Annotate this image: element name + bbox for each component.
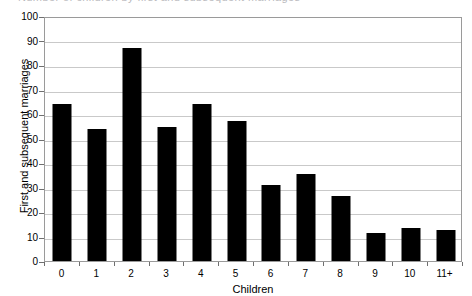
plot-area [44, 17, 462, 262]
bar[interactable] [297, 174, 316, 261]
bar-chart-figure: Number of children by first and subseque… [0, 0, 472, 296]
clipped-chart-title-text: Number of children by first and subseque… [18, 0, 301, 3]
bar[interactable] [262, 185, 281, 261]
clipped-chart-title: Number of children by first and subseque… [0, 0, 472, 9]
y-axis-tick-label: 80 [8, 61, 38, 71]
bar[interactable] [332, 196, 351, 261]
bar[interactable] [192, 104, 211, 261]
x-axis-tick-mark [149, 262, 150, 266]
x-axis-tick-mark [392, 262, 393, 266]
y-axis-tick-label: 10 [8, 233, 38, 243]
x-axis-tick-mark [79, 262, 80, 266]
x-axis-tick-marks [44, 262, 462, 267]
y-axis-tick-label: 70 [8, 86, 38, 96]
bar-slot [393, 18, 428, 261]
bar-slot [359, 18, 394, 261]
bar-slot [219, 18, 254, 261]
bar-slot [324, 18, 359, 261]
x-axis-tick-mark [462, 262, 463, 266]
bar[interactable] [123, 48, 142, 261]
bar-slot [289, 18, 324, 261]
bars-layer [45, 18, 461, 261]
y-axis-tick-label: 20 [8, 208, 38, 218]
y-axis-tick-label: 40 [8, 159, 38, 169]
y-axis-tick-label: 30 [8, 184, 38, 194]
x-axis-tick-mark [288, 262, 289, 266]
bar-slot [184, 18, 219, 261]
x-axis-tick-mark [358, 262, 359, 266]
bar[interactable] [53, 104, 72, 261]
x-axis-tick-mark [218, 262, 219, 266]
bar-slot [254, 18, 289, 261]
y-axis-tick-label: 100 [8, 12, 38, 22]
y-axis-tick-label: 60 [8, 110, 38, 120]
bar-slot [428, 18, 463, 261]
y-axis-tick-label: 0 [8, 257, 38, 267]
bar-slot [115, 18, 150, 261]
x-axis-tick-mark [323, 262, 324, 266]
x-axis-tick-mark [427, 262, 428, 266]
bar-slot [45, 18, 80, 261]
bar[interactable] [227, 121, 246, 261]
bar[interactable] [366, 233, 385, 261]
bar[interactable] [157, 127, 176, 261]
bar[interactable] [401, 228, 420, 261]
bar-slot [150, 18, 185, 261]
x-axis-tick-mark [253, 262, 254, 266]
bar[interactable] [436, 230, 455, 261]
y-axis-tick-label: 50 [8, 135, 38, 145]
y-axis-tick-label: 90 [8, 37, 38, 47]
x-axis-tick-mark [114, 262, 115, 266]
x-axis-tick-mark [44, 262, 45, 266]
bar-slot [80, 18, 115, 261]
x-axis-tick-labels: 01234567891011+ [44, 268, 462, 280]
bar[interactable] [88, 129, 107, 261]
x-axis-tick-mark [183, 262, 184, 266]
x-axis-tick-label: 11+ [425, 268, 465, 279]
x-axis-title: Children [44, 283, 462, 295]
